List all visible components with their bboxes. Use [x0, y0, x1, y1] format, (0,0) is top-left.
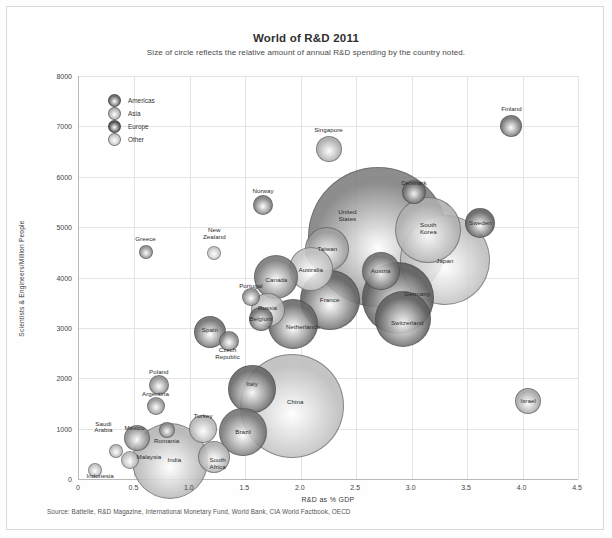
x-gridline — [578, 76, 579, 479]
legend-label: Asia — [128, 110, 140, 117]
bubble-saudi-arabia[interactable] — [109, 444, 123, 458]
bubble-label: Greece — [135, 236, 156, 243]
legend-swatch-asia — [108, 107, 121, 120]
bubble-sweden[interactable] — [465, 208, 495, 238]
x-axis-tick-label: 2.5 — [350, 484, 360, 491]
y-axis-tick-label: 8000 — [56, 73, 72, 80]
x-axis-tick-label: 4.0 — [517, 484, 527, 491]
figure-root: World of R&D 2011 Size of circle reflect… — [0, 0, 612, 538]
bubble-turkey[interactable] — [189, 415, 217, 443]
bubble-greece[interactable] — [139, 245, 153, 259]
chart-subtitle: Size of circle reflects the relative amo… — [0, 48, 612, 57]
bubble-label: Finland — [501, 106, 522, 113]
bubble-label: NewZealand — [203, 227, 226, 241]
bubble-belgium[interactable] — [249, 307, 273, 331]
y-axis-tick-label: 2000 — [56, 375, 72, 382]
bubble-indonesia[interactable] — [88, 463, 102, 477]
bubble-new-zealand[interactable] — [207, 246, 221, 260]
legend-label: Americas — [128, 97, 155, 104]
legend-swatch-europe — [108, 120, 121, 133]
bubble-label: SaudiArabia — [94, 421, 112, 435]
bubble-malaysia[interactable] — [121, 451, 139, 469]
x-axis-tick-label: 0 — [76, 484, 80, 491]
y-axis-tick-label: 7000 — [56, 123, 72, 130]
y-axis-tick-label: 1000 — [56, 425, 72, 432]
bubble-south-korea[interactable] — [395, 197, 461, 263]
legend-item-asia[interactable]: Asia — [108, 107, 155, 120]
bubble-south-africa[interactable] — [198, 441, 230, 473]
x-axis-tick-label: 3.0 — [406, 484, 416, 491]
bubble-canada[interactable] — [254, 255, 298, 299]
legend-swatch-other — [108, 133, 121, 146]
bubble-austria[interactable] — [362, 252, 400, 290]
y-axis-tick-label: 4000 — [56, 274, 72, 281]
x-axis-tick-label: 4.5 — [572, 484, 582, 491]
x-axis-tick-label: 3.5 — [461, 484, 471, 491]
bubble-poland[interactable] — [149, 375, 169, 395]
legend-item-other[interactable]: Other — [108, 133, 155, 146]
y-axis-tick-label: 0 — [68, 476, 72, 483]
y-axis-tick-label: 5000 — [56, 224, 72, 231]
legend: AmericasAsiaEuropeOther — [108, 94, 155, 146]
bubble-israel[interactable] — [515, 388, 541, 414]
bubble-label: Norway — [252, 188, 273, 195]
x-axis-tick-label: 2.0 — [295, 484, 305, 491]
bubble-label: Singapore — [314, 127, 343, 134]
bubble-italy[interactable] — [228, 365, 276, 413]
legend-label: Europe — [128, 123, 149, 130]
y-axis-tick-label: 3000 — [56, 324, 72, 331]
bubble-portugal[interactable] — [242, 288, 260, 306]
y-axis-title: Scientists & Engineers/Million People — [14, 76, 28, 480]
y-axis-tick-label: 6000 — [56, 173, 72, 180]
x-axis-tick-label: 1.5 — [239, 484, 249, 491]
bubble-finland[interactable] — [500, 115, 522, 137]
bubble-argentina[interactable] — [147, 397, 165, 415]
y-gridline — [79, 177, 578, 178]
chart-title: World of R&D 2011 — [0, 32, 612, 44]
x-axis-tick-label: 0.5 — [129, 484, 139, 491]
bubble-norway[interactable] — [253, 195, 273, 215]
legend-item-europe[interactable]: Europe — [108, 120, 155, 133]
source-note: Source: Battelle, R&D Magazine, Internat… — [47, 508, 567, 515]
bubble-denmark[interactable] — [402, 180, 426, 204]
y-gridline — [79, 76, 578, 77]
bubble-czech-republic[interactable] — [219, 331, 239, 351]
bubble-switzerland[interactable] — [375, 291, 431, 347]
legend-label: Other — [128, 136, 144, 143]
x-axis-tick-label: 1.0 — [184, 484, 194, 491]
bubble-singapore[interactable] — [316, 136, 342, 162]
bubble-romania[interactable] — [159, 422, 175, 438]
bubble-mexico[interactable] — [124, 425, 150, 451]
y-axis-title-text: Scientists & Engineers/Million People — [18, 220, 25, 336]
legend-item-americas[interactable]: Americas — [108, 94, 155, 107]
legend-swatch-americas — [108, 94, 121, 107]
x-axis-title: R&D as % GDP — [78, 496, 578, 503]
